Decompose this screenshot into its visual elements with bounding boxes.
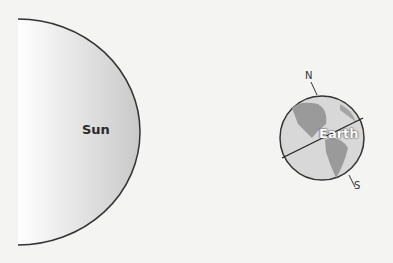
south-pole-label: S [354, 180, 360, 191]
sun-label: Sun [82, 122, 110, 137]
sun-shape [18, 19, 140, 245]
north-pole-label: N [305, 70, 312, 81]
earth-label: Earth [319, 126, 359, 141]
